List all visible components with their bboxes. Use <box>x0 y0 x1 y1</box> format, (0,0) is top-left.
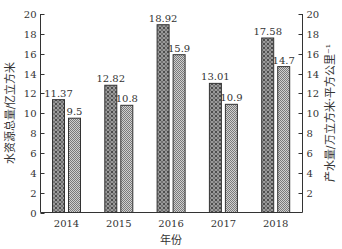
chart: 02468101214161820 2468101214161820 11.37… <box>0 0 342 249</box>
data-label-water-resources-2018: 17.58 <box>253 26 282 37</box>
y-axis-title: 水资源总量/亿立方米 <box>3 62 17 165</box>
right-tick-label: 18 <box>307 29 320 40</box>
right-tick-label: 6 <box>307 148 313 159</box>
x-axis-title: 年份 <box>160 233 182 247</box>
data-label-water-resources-2017: 13.01 <box>201 71 230 82</box>
data-label-water-yield-2014: 9.5 <box>67 106 83 117</box>
data-label-water-resources-2015: 12.82 <box>96 73 125 84</box>
left-tick-label: 6 <box>30 148 36 159</box>
right-tick-label: 20 <box>307 9 320 20</box>
right-ticks: 2468101214161820 <box>299 9 320 199</box>
x-ticks: 20142015201620172018 <box>54 218 289 229</box>
left-tick-label: 0 <box>30 208 36 219</box>
left-tick-label: 20 <box>24 9 37 20</box>
right-tick-label: 10 <box>307 108 320 119</box>
right-tick-label: 4 <box>307 168 313 179</box>
data-label-water-yield-2016: 15.9 <box>168 43 190 54</box>
bar-water-yield-2016 <box>173 55 185 213</box>
left-ticks: 02468101214161820 <box>24 9 45 219</box>
left-tick-label: 18 <box>24 29 37 40</box>
left-tick-label: 10 <box>24 108 37 119</box>
y2-axis-title: 产水量/万立方米·平方公里⁻¹ <box>323 44 337 182</box>
bar-water-yield-2015 <box>121 105 133 212</box>
x-tick-label: 2015 <box>106 218 131 229</box>
right-tick-label: 14 <box>307 69 320 80</box>
data-label-water-resources-2014: 11.37 <box>44 88 73 99</box>
right-tick-label: 12 <box>307 88 320 99</box>
left-tick-label: 8 <box>30 128 36 139</box>
bar-water-yield-2017 <box>225 104 237 212</box>
right-tick-label: 16 <box>307 49 320 60</box>
right-tick-label: 8 <box>307 128 313 139</box>
left-tick-label: 2 <box>30 188 36 199</box>
bar-water-resources-2014 <box>53 100 65 213</box>
data-label-water-resources-2016: 18.92 <box>149 13 178 24</box>
x-tick-label: 2017 <box>211 218 236 229</box>
x-tick-label: 2016 <box>158 218 183 229</box>
bar-water-yield-2014 <box>69 118 81 212</box>
x-tick-label: 2018 <box>263 218 288 229</box>
x-tick-label: 2014 <box>54 218 79 229</box>
left-tick-label: 12 <box>24 88 37 99</box>
data-label-water-yield-2015: 10.8 <box>116 93 138 104</box>
left-tick-label: 16 <box>24 49 37 60</box>
left-tick-label: 14 <box>24 69 37 80</box>
data-label-water-yield-2017: 10.9 <box>220 92 242 103</box>
right-tick-label: 2 <box>307 188 313 199</box>
data-label-water-yield-2018: 14.7 <box>273 55 295 66</box>
bar-water-resources-2015 <box>105 85 117 212</box>
left-tick-label: 4 <box>30 168 36 179</box>
bar-water-yield-2018 <box>278 67 290 213</box>
